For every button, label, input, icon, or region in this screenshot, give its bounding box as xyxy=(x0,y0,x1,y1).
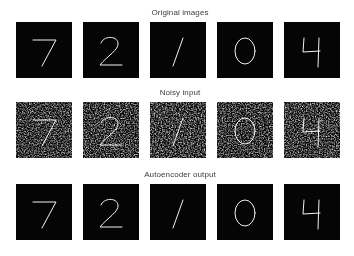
tile-original-digit-0 xyxy=(217,22,273,78)
row-title-autoencoder-output: Autoencoder output xyxy=(16,170,344,180)
tile-original-digit-4 xyxy=(284,22,340,78)
tile-output-digit-7 xyxy=(16,184,72,240)
autoencoder-denoising-figure: Original images Noisy input xyxy=(0,0,354,256)
tile-noisy-digit-0 xyxy=(217,102,273,158)
tile-noisy-digit-2 xyxy=(83,102,139,158)
tile-strip-noisy-input xyxy=(16,102,340,158)
tile-noisy-digit-4 xyxy=(284,102,340,158)
row-original-images: Original images xyxy=(16,8,344,80)
tile-original-digit-1 xyxy=(150,22,206,78)
tile-original-digit-2 xyxy=(83,22,139,78)
row-autoencoder-output: Autoencoder output xyxy=(16,170,344,244)
tile-output-digit-4 xyxy=(284,184,340,240)
row-noisy-input: Noisy input xyxy=(16,88,344,162)
tile-output-digit-2 xyxy=(83,184,139,240)
row-title-original-images: Original images xyxy=(16,8,344,18)
tile-output-digit-1 xyxy=(150,184,206,240)
tile-noisy-digit-7 xyxy=(16,102,72,158)
row-title-noisy-input: Noisy input xyxy=(16,88,344,98)
tile-strip-autoencoder-output xyxy=(16,184,340,240)
tile-original-digit-7 xyxy=(16,22,72,78)
tile-noisy-digit-1 xyxy=(150,102,206,158)
tile-strip-original-images xyxy=(16,22,340,78)
tile-output-digit-0 xyxy=(217,184,273,240)
